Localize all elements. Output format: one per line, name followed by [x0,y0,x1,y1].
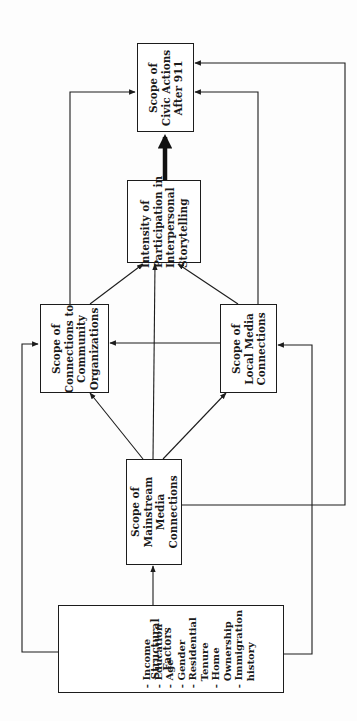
node-structural-factors: Structural Factors - Income - Education … [58,605,284,693]
node-mainstream-media: Scope of Mainstream Media Connections [126,459,182,565]
node-local-media-label: Scope of Local Media Connections [230,312,268,385]
edge-local-civic [195,92,258,304]
node-storytelling-label: Intensity of Participation in Interperso… [139,175,189,267]
path-diagram: Scope of Civic Actions After 911 Intensi… [0,0,357,721]
edge-mainstream-local [163,393,226,459]
edge-community-civic [70,92,135,304]
node-community-organizations: Scope of Connections to Community Organi… [40,304,109,393]
structural-factor-list: - Income - Education - Age - Gender - Re… [140,610,255,688]
node-community-organizations-label: Scope of Connections to Community Organi… [50,304,100,393]
edge-community-storytelling [90,264,143,304]
edge-mainstream-community [90,393,143,459]
edge-mainstream-storytelling [153,264,155,459]
node-mainstream-media-label: Scope of Mainstream Media Connections [129,475,179,548]
node-storytelling: Intensity of Participation in Interperso… [127,180,201,263]
edge-mainstream-civic [181,63,345,505]
edge-local-storytelling [178,264,238,304]
node-civic-actions-label: Scope of Civic Actions After 911 [147,49,185,125]
node-civic-actions: Scope of Civic Actions After 911 [137,43,194,132]
node-local-media: Scope of Local Media Connections [220,304,277,393]
